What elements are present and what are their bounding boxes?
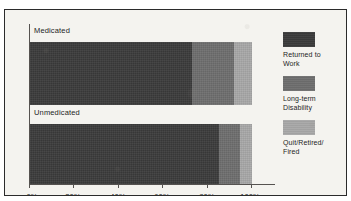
legend-label-line2: Fired: [283, 147, 343, 156]
legend-swatch-icon: [283, 76, 315, 91]
legend-label-line2: Work: [283, 59, 343, 68]
bar-segment-returned-to-work[interactable]: [30, 124, 219, 184]
category-label-medicated: Medicated: [34, 26, 70, 35]
chart-figure: Medicated Unmedicated 0% 20% 40%: [4, 9, 347, 196]
legend-item-returned-to-work[interactable]: Returned to Work: [283, 32, 343, 68]
stacked-bar-medicated: [30, 42, 252, 105]
bar-segment-long-term-disability[interactable]: [219, 124, 240, 184]
legend-item-label: Long-term Disability: [283, 94, 343, 112]
axis-tick: [251, 184, 252, 188]
stacked-bar-unmedicated: [30, 124, 252, 184]
chart-legend: Returned to Work Long-term Disability Qu…: [283, 32, 343, 164]
axis-tick-label: 100%: [240, 192, 260, 196]
axis-tick: [118, 184, 119, 188]
legend-item-label: Quit/Retired/ Fired: [283, 138, 343, 156]
axis-tick: [29, 184, 30, 188]
plot-area: Medicated Unmedicated 0% 20% 40%: [29, 24, 275, 185]
axis-tick: [207, 184, 208, 188]
axis-tick-label: 60%: [154, 192, 169, 196]
axis-tick: [162, 184, 163, 188]
legend-label-line1: Long-term: [283, 94, 343, 103]
legend-swatch-icon: [283, 120, 315, 135]
axis-tick-label: 40%: [110, 192, 125, 196]
bar-segment-quit-retired-fired[interactable]: [240, 124, 252, 184]
axis-tick-label: 20%: [65, 192, 80, 196]
legend-label-line2: Disability: [283, 103, 343, 112]
legend-label-line1: Returned to: [283, 50, 343, 59]
axis-tick-label: 80%: [199, 192, 214, 196]
value-axis-line: [29, 184, 275, 185]
legend-label-line1: Quit/Retired/: [283, 138, 343, 147]
bar-segment-long-term-disability[interactable]: [192, 42, 234, 105]
bar-segment-returned-to-work[interactable]: [30, 42, 192, 105]
category-label-unmedicated: Unmedicated: [34, 108, 80, 117]
axis-tick-label: 0%: [26, 192, 37, 196]
legend-item-label: Returned to Work: [283, 50, 343, 68]
legend-swatch-icon: [283, 32, 315, 47]
legend-item-quit-retired-fired[interactable]: Quit/Retired/ Fired: [283, 120, 343, 156]
axis-tick: [73, 184, 74, 188]
legend-item-long-term-disability[interactable]: Long-term Disability: [283, 76, 343, 112]
bar-segment-quit-retired-fired[interactable]: [234, 42, 252, 105]
